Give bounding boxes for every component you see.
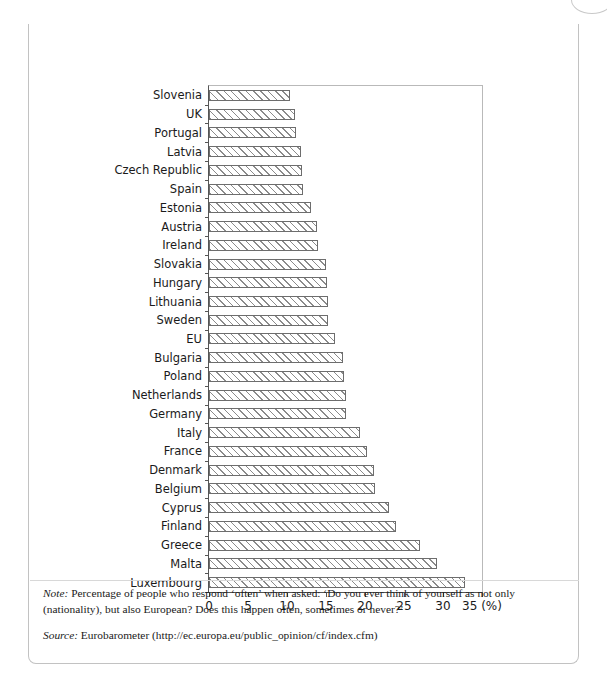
bar [209,408,346,419]
note-label: Note: [43,587,68,599]
note-text: Percentage of people who respond ‘often’… [43,587,515,615]
bar [209,446,367,457]
bar [209,483,375,494]
category-label: Slovakia [154,256,202,272]
page-corner-arc [571,0,607,14]
category-label: Slovenia [153,87,202,103]
bar [209,165,302,176]
figure-source: Source: Eurobarometer (http://ec.europa.… [43,628,559,644]
y-axis-tick [205,423,209,424]
y-axis-tick [205,330,209,331]
bar [209,352,343,363]
bar [209,315,328,326]
category-label: Latvia [167,144,202,160]
bar [209,109,295,120]
category-label: Spain [170,181,202,197]
source-label: Source: [43,629,78,641]
category-label: Austria [161,219,202,235]
source-text: Eurobarometer (http://ec.europa.eu/publi… [78,629,378,641]
category-label: Denmark [149,462,202,478]
category-label: Cyprus [162,500,202,516]
bar [209,240,318,251]
y-axis-tick [205,348,209,349]
y-axis-tick [205,273,209,274]
y-axis-tick [205,536,209,537]
bar [209,390,346,401]
category-label: Poland [164,368,202,384]
category-label: Estonia [160,200,202,216]
bar [209,333,335,344]
bar [209,521,396,532]
category-label: Germany [149,406,202,422]
bar [209,371,344,382]
figure-box: SloveniaUKPortugalLatviaCzech RepublicSp… [28,24,579,664]
y-axis-tick [205,236,209,237]
bar [209,296,328,307]
figure-note: Note: Percentage of people who respond ‘… [43,586,559,617]
bar [209,146,301,157]
y-axis-tick [205,180,209,181]
category-label: Malta [170,556,202,572]
y-axis-tick [205,142,209,143]
y-axis-tick [205,161,209,162]
y-axis-tick [205,198,209,199]
y-axis-tick [205,517,209,518]
bar [209,277,327,288]
y-axis-tick [205,311,209,312]
bar [209,427,360,438]
y-axis-tick [205,123,209,124]
y-axis-tick [205,461,209,462]
category-label: EU [186,331,202,347]
category-label: Belgium [155,481,202,497]
category-label: Bulgaria [154,350,202,366]
bar [209,221,317,232]
bar [209,259,326,270]
y-axis-tick [205,105,209,106]
category-label: Lithuania [149,294,202,310]
category-label: Czech Republic [114,162,202,178]
bar [209,90,290,101]
category-label: Netherlands [132,387,202,403]
y-axis-tick [205,292,209,293]
category-label: Greece [161,537,202,553]
y-axis-tick [205,498,209,499]
y-axis-tick [205,480,209,481]
category-label: Finland [161,518,202,534]
category-label: Portugal [154,125,202,141]
bar [209,502,389,513]
y-axis-tick [205,555,209,556]
y-axis-tick [205,367,209,368]
note-divider [30,580,579,581]
bar [209,465,374,476]
y-axis-tick [205,217,209,218]
category-label: Sweden [157,312,202,328]
category-label: Ireland [162,237,202,253]
category-label: Italy [177,425,202,441]
category-label: France [164,443,202,459]
y-axis-tick [205,405,209,406]
y-axis-tick [205,442,209,443]
y-axis-tick [205,255,209,256]
category-label: Hungary [153,275,202,291]
category-label: UK [186,106,202,122]
bar [209,540,420,551]
bar [209,127,296,138]
bar [209,184,303,195]
bar [209,202,311,213]
y-axis-tick [205,573,209,574]
y-axis-tick [205,386,209,387]
plot-area: SloveniaUKPortugalLatviaCzech RepublicSp… [208,85,483,593]
bar [209,558,437,569]
